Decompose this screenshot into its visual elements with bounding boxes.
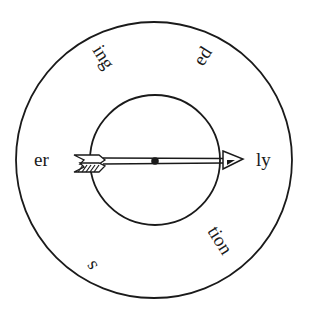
arrow-fletching-icon [74, 155, 105, 172]
spinner-arrow[interactable] [74, 151, 243, 172]
arrowhead-icon [223, 151, 243, 169]
suffix-spinner-diagram: er ly ing ed tion s [0, 0, 309, 314]
suffix-ed: ed [189, 42, 217, 69]
suffix-tion: tion [204, 222, 238, 259]
suffix-er: er [34, 149, 49, 170]
suffix-ing: ing [89, 41, 120, 73]
suffix-ly: ly [256, 149, 271, 170]
pivot-dot [151, 157, 159, 165]
suffix-s: s [80, 258, 102, 275]
